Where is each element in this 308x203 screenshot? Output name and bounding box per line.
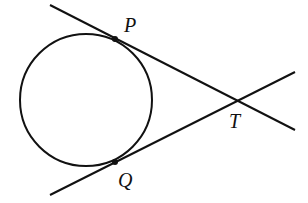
point-p-dot <box>112 36 118 42</box>
tangent-line-qt <box>50 72 295 195</box>
point-q-dot <box>112 159 118 165</box>
label-q: Q <box>118 169 133 191</box>
label-t: T <box>229 110 242 132</box>
label-p: P <box>123 14 136 36</box>
tangent-line-pt <box>50 5 295 130</box>
circle <box>20 34 152 166</box>
diagram-canvas: P Q T <box>0 0 308 203</box>
